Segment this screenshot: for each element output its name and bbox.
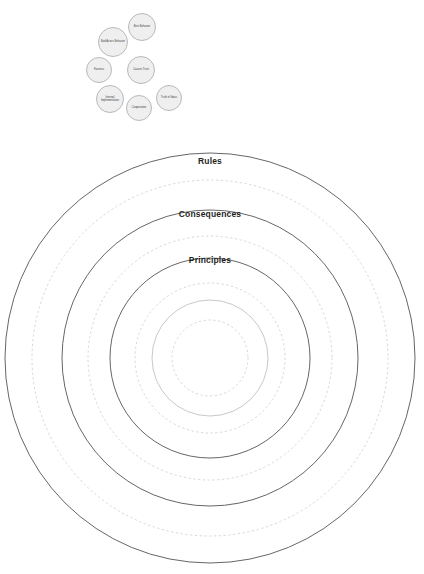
label-consequences: Consequences bbox=[179, 209, 242, 219]
cluster-node-label: Fairness bbox=[93, 68, 105, 71]
diagram-canvas: Bad Actors BehaviorBest BehaviorFairness… bbox=[0, 0, 424, 574]
cluster-node-label: Internal Implementation bbox=[97, 96, 123, 102]
cluster-node-node-4[interactable]: Causes Trust bbox=[127, 56, 155, 84]
label-principles: Principles bbox=[189, 255, 231, 265]
ring-ring-inner-solid bbox=[110, 258, 310, 458]
ring-ring-core-dashed bbox=[172, 320, 248, 396]
cluster-node-node-1[interactable]: Bad Actors Behavior bbox=[98, 27, 128, 57]
cluster-node-label: Truth of Ideas bbox=[160, 96, 178, 99]
cluster-node-node-3[interactable]: Fairness bbox=[86, 57, 112, 83]
ring-ring-dashed-1 bbox=[32, 180, 388, 536]
cluster-node-label: Bad Actors Behavior bbox=[100, 40, 126, 43]
ring-ring-core-solid bbox=[152, 300, 268, 416]
ring-ring-dashed-3 bbox=[135, 283, 285, 433]
cluster-node-node-2[interactable]: Best Behavior bbox=[128, 13, 156, 41]
label-rules: Rules bbox=[198, 156, 222, 166]
cluster-node-node-5[interactable]: Internal Implementation bbox=[96, 85, 124, 113]
cluster-node-node-7[interactable]: Truth of Ideas bbox=[156, 85, 182, 111]
cluster-node-node-6[interactable]: Cooperation bbox=[126, 95, 152, 121]
node-cluster: Bad Actors BehaviorBest BehaviorFairness… bbox=[0, 0, 424, 140]
cluster-node-label: Best Behavior bbox=[133, 25, 152, 28]
cluster-node-label: Causes Trust bbox=[132, 68, 150, 71]
ring-ring-dashed-2 bbox=[88, 236, 332, 480]
cluster-node-label: Cooperation bbox=[131, 106, 147, 109]
